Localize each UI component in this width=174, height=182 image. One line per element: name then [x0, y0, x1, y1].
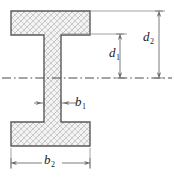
- d1-symbol: d: [109, 45, 116, 60]
- b1-subscript: 1: [82, 102, 86, 111]
- d2-symbol: d: [143, 29, 150, 44]
- i-beam-cross-section-figure: d1 d2 b1 b2: [0, 0, 174, 182]
- dimension-label-d2: d2: [143, 30, 154, 43]
- dimension-label-b1: b1: [75, 95, 86, 108]
- b1-symbol: b: [75, 94, 82, 109]
- d2-subscript: 2: [150, 37, 154, 46]
- dimension-label-b2: b2: [44, 153, 55, 166]
- beam-drawing-canvas: [0, 0, 174, 182]
- dimension-label-d1: d1: [109, 46, 120, 59]
- b2-subscript: 2: [51, 160, 55, 169]
- b2-symbol: b: [44, 152, 51, 167]
- d1-subscript: 1: [116, 53, 120, 62]
